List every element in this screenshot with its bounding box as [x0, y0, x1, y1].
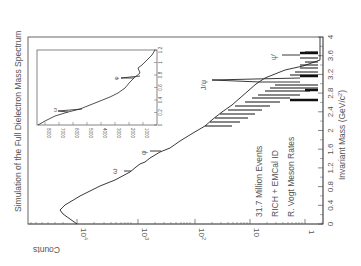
- omega-label: ω: [111, 168, 118, 174]
- svg-text:0.4: 0.4: [326, 199, 335, 211]
- svg-text:2000: 2000: [130, 128, 135, 139]
- inset-plot: 8000 7000 6000 5000 4000 3000 2000 1000 …: [37, 46, 163, 138]
- svg-text:R. Vogt Meson Rates: R. Vogt Meson Rates: [286, 137, 296, 217]
- svg-text:0: 0: [158, 123, 163, 126]
- inset-omega-label: ω: [52, 107, 58, 112]
- svg-text:4000: 4000: [102, 128, 107, 139]
- svg-text:1.2: 1.2: [158, 46, 163, 53]
- svg-text:1.2: 1.2: [326, 162, 335, 174]
- svg-text:3.6: 3.6: [326, 50, 335, 62]
- svg-text:1000: 1000: [144, 128, 149, 139]
- rotated-chart: Simulation of the Full Dielectron Mass S…: [0, 0, 361, 266]
- svg-text:3000: 3000: [116, 128, 121, 139]
- mass-axis: [318, 37, 323, 224]
- counts-axis: [28, 219, 323, 224]
- svg-text:103: 103: [140, 228, 150, 240]
- svg-text:31.7 Million Events: 31.7 Million Events: [254, 146, 264, 217]
- svg-text:4: 4: [326, 34, 335, 39]
- svg-text:104: 104: [79, 228, 89, 240]
- svg-text:1.6: 1.6: [326, 143, 335, 155]
- phi-label: φ: [140, 150, 148, 155]
- mass-axis-label: Invariant Mass (GeV/c2): [337, 90, 347, 180]
- svg-text:0.6: 0.6: [158, 84, 163, 91]
- info-text: 31.7 Million Events RICH + EMCal ID R. V…: [254, 137, 296, 217]
- svg-text:8000: 8000: [46, 128, 51, 139]
- svg-text:0.4: 0.4: [158, 96, 163, 103]
- chart-title: Simulation of the Full Dielectron Mass S…: [13, 31, 23, 212]
- svg-text:2.4: 2.4: [326, 106, 335, 118]
- inset-phi-label: φ: [113, 76, 119, 80]
- svg-text:1: 1: [158, 61, 163, 64]
- high-mass-noise: [205, 52, 318, 126]
- high-mass-dense: [290, 53, 318, 100]
- counts-tick-labels: 104 103 102 10 1: [79, 228, 316, 240]
- svg-text:2: 2: [326, 128, 335, 133]
- svg-text:6000: 6000: [74, 128, 79, 139]
- mass-tick-labels: 0 0.4 0.8 1.2 1.6 2 2.4 2.8 3.2 3.6 4: [326, 34, 335, 226]
- svg-text:0.8: 0.8: [326, 180, 335, 192]
- svg-text:10: 10: [252, 228, 261, 237]
- svg-text:RICH + EMCal ID: RICH + EMCal ID: [270, 150, 280, 217]
- counts-axis-label: Counts: [33, 245, 60, 255]
- svg-text:0.8: 0.8: [158, 71, 163, 78]
- svg-text:102: 102: [197, 228, 207, 240]
- jpsi-label: J/ψ: [200, 80, 208, 90]
- svg-text:0.2: 0.2: [158, 109, 163, 116]
- svg-text:7000: 7000: [60, 128, 65, 139]
- svg-text:2.8: 2.8: [326, 87, 335, 99]
- svg-text:0: 0: [326, 221, 335, 226]
- psiprime-label: ψ': [270, 54, 278, 60]
- svg-text:5000: 5000: [88, 128, 93, 139]
- svg-text:1: 1: [307, 230, 316, 235]
- svg-text:3.2: 3.2: [326, 68, 335, 80]
